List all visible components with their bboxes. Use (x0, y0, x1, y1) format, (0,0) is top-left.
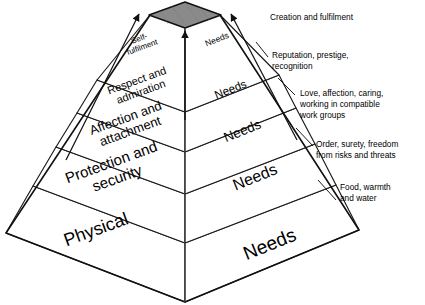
annotation-line: from risks and threats (316, 150, 396, 160)
left-label-respect: Respect and admiration (106, 64, 172, 108)
annotation-line: Order, surety, freedom (316, 139, 398, 149)
right-label-needs-affection: Needs (221, 116, 263, 145)
left-label-protection: Protection and security (63, 137, 166, 202)
annotation-line: work groups (299, 110, 345, 120)
annotation-line: Love, affection, caring, (300, 88, 383, 98)
right-label-needs-respect: Needs (213, 77, 249, 101)
annotation-line: and water (340, 193, 377, 203)
annotation-line: recognition (272, 61, 313, 71)
annotation-self-fulfilment: Creation and fulfilment (270, 12, 354, 22)
label-layer: Self- fulfilment Respect and admiration … (0, 0, 425, 305)
annotation-line: working in compatible (299, 99, 380, 109)
left-label-line: Physical (61, 209, 131, 251)
left-label-physical: Physical (61, 209, 131, 251)
pyramid-diagram: Self- fulfilment Respect and admiration … (0, 0, 425, 305)
annotation-affection: Love, affection, caring, working in comp… (299, 88, 383, 120)
annotations: Creation and fulfilment Reputation, pres… (270, 12, 398, 203)
annotation-line: Food, warmth (340, 182, 391, 192)
annotation-physical: Food, warmth and water (340, 182, 391, 203)
annotation-protection: Order, surety, freedom from risks and th… (316, 139, 398, 160)
right-label-needs-physical: Needs (240, 224, 299, 264)
annotation-respect: Reputation, prestige, recognition (272, 50, 349, 71)
left-face-labels: Self- fulfilment Respect and admiration … (61, 29, 172, 251)
annotation-line: Creation and fulfilment (270, 12, 354, 22)
annotation-line: Reputation, prestige, (272, 50, 349, 60)
left-label-affection: Affection and attachment (87, 98, 168, 151)
right-label-needs-protection: Needs (230, 160, 279, 193)
left-label-self-fulfilment: Self- fulfilment (123, 29, 160, 57)
right-label-needs-self: Needs (204, 30, 231, 48)
